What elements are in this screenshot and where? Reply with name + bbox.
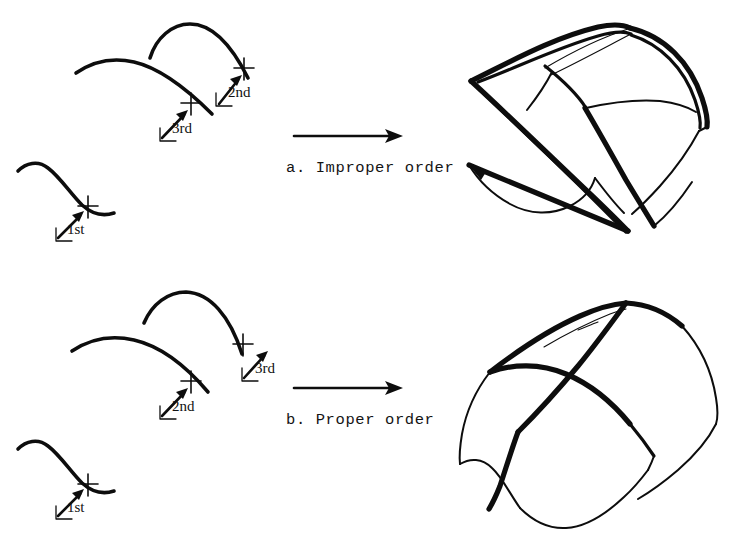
caption-panel-b: b. Proper order bbox=[286, 413, 435, 429]
surface-a-right-rim-inner bbox=[631, 35, 700, 128]
figure-root: 1st 3rd 2nd a. Improper order 1st 2nd 3r… bbox=[0, 0, 730, 546]
surface-b-section-curve-tail bbox=[630, 424, 654, 456]
surface-b-lower-right-connector bbox=[648, 456, 654, 470]
surface-a-twist-web-2 bbox=[551, 35, 629, 75]
curve-label-1st-panel-a: 1st bbox=[67, 222, 85, 237]
surface-a-section-curve bbox=[586, 100, 696, 112]
transform-arrow-panel-b bbox=[294, 381, 403, 395]
surface-b-left-notch bbox=[460, 460, 520, 508]
surface-b-right-rim-lower bbox=[638, 424, 716, 499]
curve-label-1st-panel-b: 1st bbox=[67, 500, 85, 515]
surface-b-section-curve bbox=[490, 366, 630, 424]
curve-label-3rd-panel-b: 3rd bbox=[255, 361, 275, 376]
curve-2nd-panel-a bbox=[150, 24, 248, 78]
figure-canvas bbox=[0, 0, 730, 546]
curve-label-3rd-panel-a: 3rd bbox=[172, 121, 192, 136]
surface-b-top-ridge bbox=[626, 303, 682, 326]
curve-label-2nd-panel-a: 2nd bbox=[228, 85, 251, 100]
surface-a-twist-fold-2 bbox=[527, 72, 552, 110]
surface-b-right-rim bbox=[682, 326, 718, 424]
caption-panel-a: a. Improper order bbox=[286, 161, 454, 177]
panel-b-input-curves bbox=[18, 292, 268, 519]
curve-1st-panel-a bbox=[18, 163, 114, 214]
surface-a-bottom-cap-link bbox=[595, 178, 624, 213]
panel-a-input-curves bbox=[18, 24, 254, 241]
surface-b-upper-left-edge bbox=[490, 303, 626, 372]
surface-proper bbox=[460, 303, 718, 528]
curve-3rd-panel-b bbox=[144, 292, 242, 354]
curve-1st-panel-b bbox=[18, 441, 114, 492]
surface-a-left-tip bbox=[469, 165, 628, 231]
surface-improper bbox=[469, 25, 707, 232]
curve-2nd-panel-b bbox=[72, 338, 208, 392]
surface-a-left-silhouette-inner bbox=[478, 88, 626, 232]
surface-b-left-front-rim bbox=[460, 372, 490, 464]
surface-a-right-cap-link bbox=[654, 182, 692, 226]
transform-arrow-panel-a bbox=[294, 129, 403, 143]
curve-label-2nd-panel-b: 2nd bbox=[172, 399, 195, 414]
surface-b-bottom-cap bbox=[520, 470, 648, 528]
